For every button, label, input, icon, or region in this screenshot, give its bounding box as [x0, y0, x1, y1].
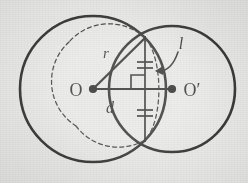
label-center-left: O: [70, 80, 83, 100]
label-radius: r: [103, 45, 109, 61]
radius-line: [93, 38, 145, 89]
lens-arrowhead-icon: [155, 66, 163, 75]
label-center-right: O′: [184, 80, 201, 100]
right-angle-marker: [131, 75, 145, 89]
point-dot-O: [89, 85, 97, 93]
geometry-diagram: O O′ r d l: [0, 0, 248, 183]
figure-canvas: O O′ r d l: [0, 0, 248, 183]
point-dot-O-prime: [168, 85, 176, 93]
label-lens: l: [179, 35, 184, 52]
label-distance: d: [106, 99, 115, 116]
